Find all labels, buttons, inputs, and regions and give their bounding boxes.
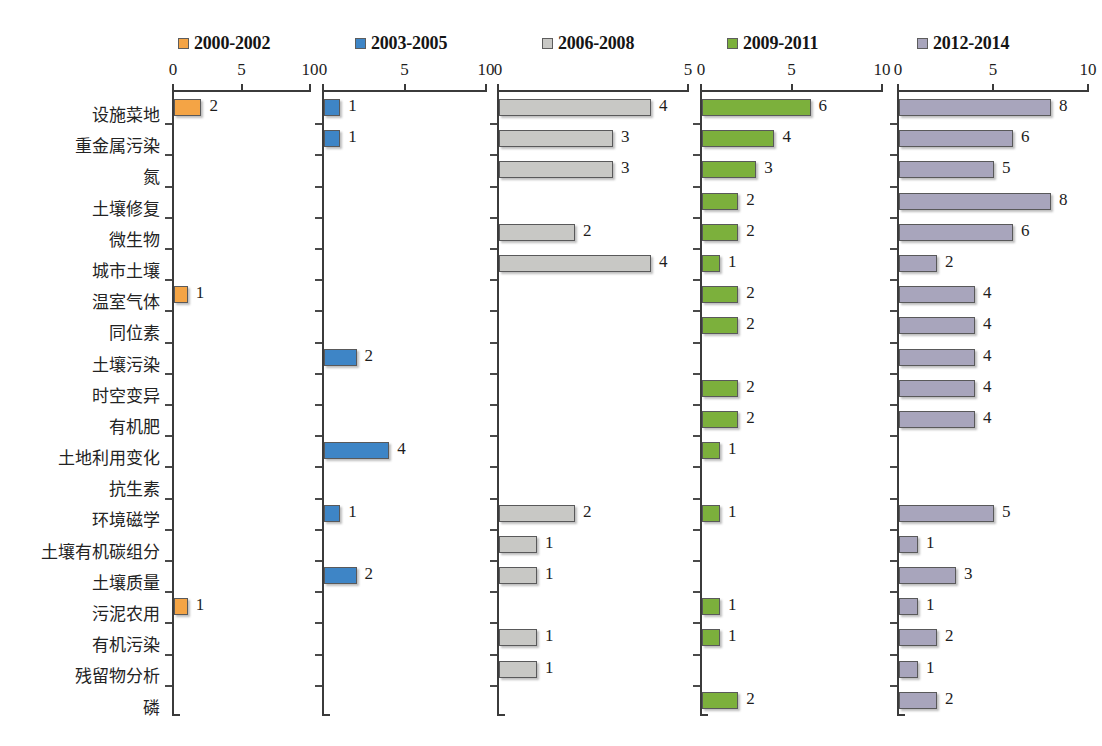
bar[interactable] bbox=[324, 349, 357, 366]
bar-row: 2 bbox=[897, 622, 1097, 653]
bar[interactable] bbox=[899, 411, 975, 428]
bar[interactable] bbox=[899, 255, 937, 272]
bar[interactable] bbox=[702, 193, 738, 210]
bar[interactable] bbox=[899, 598, 918, 615]
y-axis-tick bbox=[315, 310, 322, 312]
bar[interactable] bbox=[899, 130, 1013, 147]
bar[interactable] bbox=[899, 286, 975, 303]
bar-row bbox=[172, 654, 320, 685]
bar[interactable] bbox=[702, 380, 738, 397]
bar[interactable] bbox=[499, 99, 651, 116]
bar-row bbox=[897, 466, 1097, 497]
bar-row: 6 bbox=[700, 92, 890, 123]
bar-row: 4 bbox=[497, 248, 697, 279]
bar-row bbox=[700, 529, 890, 560]
y-axis-tick bbox=[315, 466, 322, 468]
bar[interactable] bbox=[499, 505, 575, 522]
bar[interactable] bbox=[899, 692, 937, 709]
bar-row: 1 bbox=[322, 123, 495, 154]
bar[interactable] bbox=[324, 567, 357, 584]
bar[interactable] bbox=[324, 442, 389, 459]
y-axis-tick bbox=[890, 123, 897, 125]
bar[interactable] bbox=[174, 99, 201, 116]
bar-row: 1 bbox=[700, 498, 890, 529]
bar[interactable] bbox=[324, 99, 340, 116]
x-axis-tick-label: 5 bbox=[237, 60, 246, 80]
bar[interactable] bbox=[702, 411, 738, 428]
bar[interactable] bbox=[899, 505, 994, 522]
bar[interactable] bbox=[499, 130, 613, 147]
legend-item-2000-2002[interactable]: 2000-2002 bbox=[178, 33, 270, 54]
x-axis-tick bbox=[309, 84, 311, 92]
bar[interactable] bbox=[899, 661, 918, 678]
y-axis-tick bbox=[890, 342, 897, 344]
bar[interactable] bbox=[324, 130, 340, 147]
bar[interactable] bbox=[174, 598, 188, 615]
bar-value-label: 2 bbox=[746, 314, 755, 334]
bar[interactable] bbox=[899, 349, 975, 366]
bar[interactable] bbox=[899, 99, 1051, 116]
x-axis-tick-labels: 05 bbox=[497, 60, 697, 82]
bar[interactable] bbox=[899, 380, 975, 397]
bar-value-label: 6 bbox=[1021, 221, 1030, 241]
bar[interactable] bbox=[499, 567, 537, 584]
bar[interactable] bbox=[899, 567, 956, 584]
bar[interactable] bbox=[899, 224, 1013, 241]
bar-row: 1 bbox=[497, 529, 697, 560]
bar-row bbox=[497, 685, 697, 716]
bar-row: 4 bbox=[897, 404, 1097, 435]
bar-row bbox=[497, 310, 697, 341]
y-axis-tick bbox=[890, 560, 897, 562]
bar[interactable] bbox=[702, 286, 738, 303]
bar[interactable] bbox=[702, 505, 720, 522]
bar[interactable] bbox=[899, 193, 1051, 210]
bar[interactable] bbox=[702, 130, 774, 147]
bar-row: 2 bbox=[700, 217, 890, 248]
bar-row bbox=[322, 279, 495, 310]
y-axis-tick bbox=[693, 154, 700, 156]
bar[interactable] bbox=[899, 161, 994, 178]
bar[interactable] bbox=[324, 505, 340, 522]
x-axis-tick-labels: 0510 bbox=[172, 60, 320, 82]
bar[interactable] bbox=[899, 536, 918, 553]
y-axis-tick bbox=[315, 373, 322, 375]
y-axis-tick bbox=[693, 498, 700, 500]
bar-row: 5 bbox=[897, 154, 1097, 185]
category-label: 时空变异 bbox=[0, 381, 168, 412]
bar-value-label: 6 bbox=[1021, 127, 1030, 147]
bar-value-label: 1 bbox=[728, 502, 737, 522]
bar[interactable] bbox=[702, 99, 811, 116]
legend-item-2009-2011[interactable]: 2009-2011 bbox=[727, 33, 818, 54]
bar[interactable] bbox=[702, 442, 720, 459]
bar[interactable] bbox=[702, 317, 738, 334]
legend-item-2003-2005[interactable]: 2003-2005 bbox=[355, 33, 447, 54]
bar[interactable] bbox=[499, 255, 651, 272]
x-axis-tick-label: 5 bbox=[400, 60, 409, 80]
bar[interactable] bbox=[702, 161, 756, 178]
legend-item-2012-2014[interactable]: 2012-2014 bbox=[917, 33, 1009, 54]
bar-value-label: 4 bbox=[983, 408, 992, 428]
bar[interactable] bbox=[499, 629, 537, 646]
y-axis-tick bbox=[315, 279, 322, 281]
bar[interactable] bbox=[499, 224, 575, 241]
bar-value-label: 4 bbox=[983, 283, 992, 303]
legend-item-2006-2008[interactable]: 2006-2008 bbox=[542, 33, 634, 54]
bar[interactable] bbox=[499, 536, 537, 553]
x-axis-tick-label: 10 bbox=[874, 60, 891, 80]
y-axis-tick bbox=[315, 123, 322, 125]
bar-row: 3 bbox=[700, 154, 890, 185]
bar[interactable] bbox=[702, 598, 720, 615]
x-axis-tick bbox=[897, 84, 899, 92]
bar[interactable] bbox=[702, 224, 738, 241]
bar[interactable] bbox=[499, 661, 537, 678]
bar[interactable] bbox=[702, 255, 720, 272]
bar[interactable] bbox=[702, 629, 720, 646]
y-axis-tick bbox=[890, 435, 897, 437]
bar[interactable] bbox=[899, 317, 975, 334]
bar-row bbox=[172, 186, 320, 217]
bar[interactable] bbox=[702, 692, 738, 709]
bar[interactable] bbox=[899, 629, 937, 646]
bar[interactable] bbox=[174, 286, 188, 303]
bar[interactable] bbox=[499, 161, 613, 178]
y-axis-tick bbox=[315, 186, 322, 188]
